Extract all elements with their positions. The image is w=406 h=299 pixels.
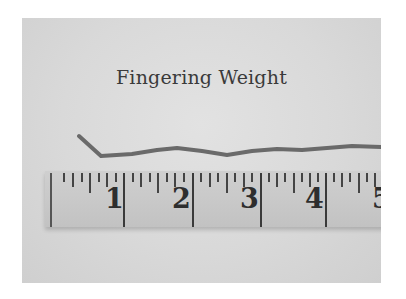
ruler-tick xyxy=(132,173,134,182)
ruler-number-1: 1 xyxy=(105,185,124,212)
ruler-tick xyxy=(63,173,65,182)
ruler-start-edge xyxy=(50,173,52,227)
ruler-tick xyxy=(301,173,303,182)
ruler-tick xyxy=(200,173,202,182)
ruler-number-4: 4 xyxy=(305,185,324,212)
ruler-tick xyxy=(284,173,286,182)
photo: Fingering Weight 1 2 3 xyxy=(22,18,381,283)
ruler-number-2: 2 xyxy=(172,185,191,212)
ruler-tick xyxy=(183,173,185,182)
ruler-tick xyxy=(268,173,270,182)
ruler-number-5: 5 xyxy=(372,185,381,212)
yarn-strand xyxy=(22,18,381,283)
ruler-tick xyxy=(140,173,142,187)
tape-measure: 1 2 3 4 xyxy=(45,171,381,227)
ruler-tick xyxy=(209,173,211,187)
ruler-tick xyxy=(115,173,117,182)
ruler-major-line-2 xyxy=(192,173,194,227)
ruler-tick xyxy=(358,173,360,193)
ruler-number-3: 3 xyxy=(240,185,259,212)
ruler-tick xyxy=(341,173,343,187)
ruler-tick xyxy=(276,173,278,187)
ruler-tick xyxy=(251,173,253,182)
ruler-tick xyxy=(234,173,236,182)
ruler-tick xyxy=(149,173,151,182)
ruler-tick xyxy=(349,173,351,182)
ruler-tick xyxy=(72,173,74,187)
ruler-tick xyxy=(217,173,219,182)
ruler-tick xyxy=(226,173,228,193)
ruler-tick xyxy=(366,173,368,182)
ruler-tick xyxy=(293,173,295,193)
ruler-tick xyxy=(89,173,91,193)
ruler-tick xyxy=(81,173,83,182)
ruler-major-line-4 xyxy=(325,173,327,227)
ruler-major-line-3 xyxy=(260,173,262,227)
ruler-tick xyxy=(157,173,159,193)
ruler-tick xyxy=(333,173,335,182)
ruler-tick xyxy=(317,173,319,182)
ruler-tick xyxy=(98,173,100,182)
ruler-tick xyxy=(166,173,168,182)
